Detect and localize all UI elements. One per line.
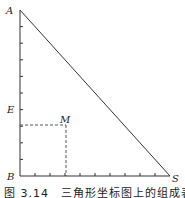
triangle-diagram: A E M B S [0,0,185,182]
figure-caption: 图 3.14 三角形坐标图上的组成表示 [4,184,185,198]
label-s: S [172,173,179,182]
label-b: B [6,171,14,182]
hypotenuse-as [20,10,170,176]
label-m: M [59,114,71,125]
label-a: A [5,5,13,16]
label-e: E [6,104,15,115]
